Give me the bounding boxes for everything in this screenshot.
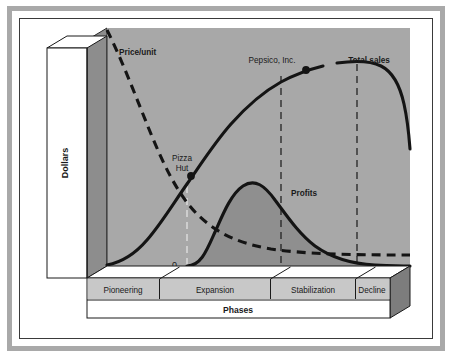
y-axis-label: Dollars [60,148,70,179]
phase-label-pioneering: Pioneering [103,286,143,295]
chart-canvas: Dollars Price/unit Pepsico, Inc. Total s… [19,18,433,339]
x-axis-label: Phases [223,305,253,315]
phase-bar: Pioneering Expansion Stabilization Decli… [87,266,410,318]
data-point-pepsico[interactable] [302,66,310,74]
series-label-total-sales: Total sales [348,56,390,65]
data-point-pizza-hut[interactable] [187,172,195,180]
phase-label-stabilization: Stabilization [291,286,336,295]
phase-bar-top-face [87,266,410,278]
annotation-pizza-hut-line2: Hut [176,164,189,173]
series-label-price-per-unit: Price/unit [119,48,157,57]
series-label-profits: Profits [291,189,317,198]
phase-label-decline: Decline [358,286,386,295]
phase-label-expansion: Expansion [196,286,235,295]
plot-left-face [87,28,107,278]
product-life-cycle-figure: Dollars Price/unit Pepsico, Inc. Total s… [0,0,452,357]
annotation-pizza-hut-line1: Pizza [172,154,192,163]
series-label-pepsico: Pepsico, Inc. [249,56,296,65]
